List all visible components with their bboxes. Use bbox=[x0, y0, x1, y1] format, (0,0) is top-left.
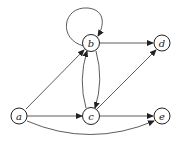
node-e-label: e bbox=[159, 111, 165, 122]
node-b: b bbox=[83, 35, 100, 52]
edge-b-c bbox=[95, 51, 100, 108]
node-c-label: c bbox=[88, 111, 94, 122]
node-d: d bbox=[154, 35, 170, 51]
node-d-label: d bbox=[159, 38, 165, 49]
node-a-label: a bbox=[16, 111, 22, 122]
edge-c-b bbox=[82, 51, 87, 108]
node-c: c bbox=[83, 108, 100, 125]
node-b-label: b bbox=[88, 38, 94, 49]
node-a: a bbox=[11, 108, 27, 124]
edge-c-d bbox=[97, 50, 156, 109]
directed-graph: a b c d e bbox=[0, 0, 182, 143]
node-e: e bbox=[154, 108, 170, 124]
edge-a-b bbox=[26, 50, 84, 109]
